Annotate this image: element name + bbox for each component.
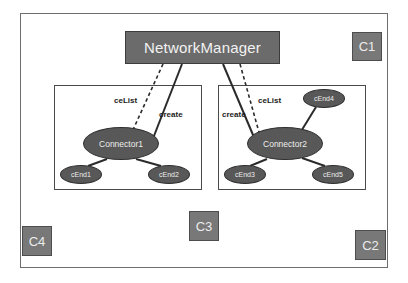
- cend1-node[interactable]: cEnd1: [60, 165, 102, 184]
- corner-label-c1-text: C1: [359, 39, 376, 54]
- corner-label-c4-text: C4: [29, 234, 46, 249]
- corner-label-c1[interactable]: C1: [352, 32, 382, 61]
- cend2-label: cEnd2: [159, 171, 179, 178]
- corner-label-c2[interactable]: C2: [355, 230, 386, 260]
- connector2-label: Connector2: [263, 139, 307, 149]
- cend3-label: cEnd3: [235, 171, 255, 178]
- edge-label-celist-right: ceList: [258, 96, 281, 105]
- cend4-label: cEnd4: [314, 95, 334, 102]
- corner-label-c4[interactable]: C4: [22, 226, 52, 256]
- network-manager-class[interactable]: NetworkManager: [125, 31, 280, 64]
- edge-label-create-right: create: [222, 110, 246, 119]
- connector1-label: Connector1: [99, 139, 143, 149]
- corner-label-c3-text: C3: [196, 219, 213, 234]
- cend2-node[interactable]: cEnd2: [148, 165, 190, 184]
- corner-label-c3[interactable]: C3: [189, 211, 219, 241]
- cend4-node[interactable]: cEnd4: [303, 89, 345, 108]
- cend5-node[interactable]: cEnd5: [312, 165, 354, 184]
- corner-label-c2-text: C2: [362, 238, 379, 253]
- cend3-node[interactable]: cEnd3: [224, 165, 266, 184]
- diagram-canvas: NetworkManager Connector1 Connector2 cEn…: [0, 0, 408, 283]
- edge-label-celist-left: ceList: [114, 96, 137, 105]
- cend1-label: cEnd1: [71, 171, 91, 178]
- connector2-node[interactable]: Connector2: [247, 127, 323, 160]
- connector1-node[interactable]: Connector1: [83, 127, 159, 160]
- cend5-label: cEnd5: [323, 171, 343, 178]
- edge-label-create-left: create: [159, 110, 183, 119]
- network-manager-label: NetworkManager: [144, 39, 261, 56]
